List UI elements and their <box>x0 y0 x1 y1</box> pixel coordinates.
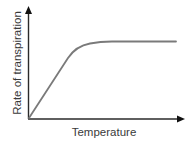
transpiration-chart: Rate of transpiration Temperature <box>0 0 193 142</box>
y-axis-arrow-icon <box>25 6 32 14</box>
x-axis-label: Temperature <box>72 126 137 138</box>
chart-plot <box>0 0 193 142</box>
y-axis-label: Rate of transpiration <box>11 11 23 115</box>
x-axis-arrow-icon <box>177 116 185 123</box>
transpiration-curve <box>29 42 176 119</box>
